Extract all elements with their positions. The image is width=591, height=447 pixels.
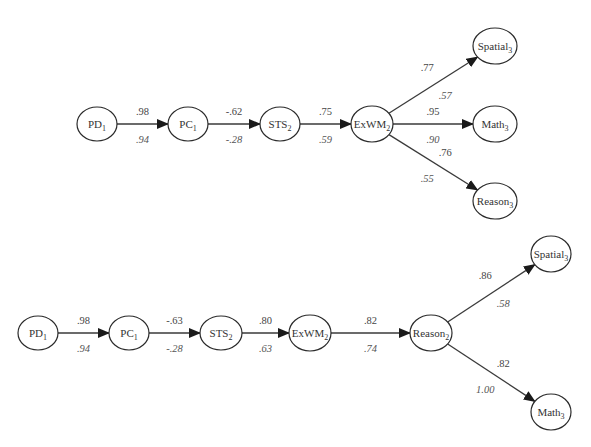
node-label-subscript: 3	[561, 412, 565, 421]
node-label-base: Math	[481, 118, 505, 130]
node-spatial3: Spatial3	[473, 28, 517, 64]
node-pd1: PD1	[77, 107, 117, 141]
coefficient-lower: .57	[439, 90, 453, 101]
path-diagram: .98.94-.62-.28.75.59.77.57.95.90.76.55.9…	[0, 0, 591, 447]
node-label-subscript: 2	[228, 333, 232, 342]
coefficient-lower: -.28	[166, 343, 183, 354]
nodes-layer: PD1PC1STS2ExWM2Spatial3Math3Reason3PD1PC…	[18, 28, 571, 430]
node-label-base: Reason	[413, 327, 446, 339]
coefficient-upper: .80	[259, 315, 272, 326]
coefficient-upper: .86	[479, 270, 492, 281]
node-label-subscript: 2	[445, 333, 449, 342]
node-label-base: ExWM	[292, 327, 325, 339]
node-pc1: PC1	[168, 107, 208, 141]
coefficient-upper: -.63	[166, 315, 183, 326]
node-reason3: Reason3	[473, 183, 517, 219]
node-label-subscript: 1	[43, 333, 47, 342]
node-label-base: Spatial	[534, 248, 565, 260]
coefficient-lower: .94	[77, 343, 91, 354]
coefficient-lower: .59	[319, 134, 333, 145]
node-sts2: STS2	[200, 316, 242, 350]
node-pd1: PD1	[18, 316, 58, 350]
node-label-subscript: 1	[193, 124, 197, 133]
coefficient-upper: .82	[497, 358, 510, 369]
node-label-subscript: 2	[287, 124, 291, 133]
node-label-base: PC	[179, 118, 192, 130]
coefficient-upper: .98	[77, 315, 90, 326]
node-label-subscript: 2	[324, 333, 328, 342]
coefficient-lower: .58	[497, 298, 511, 309]
coefficient-lower: .74	[364, 343, 378, 354]
coefficient-lower: 1.00	[476, 384, 495, 395]
node-exwm2: ExWM2	[351, 106, 393, 142]
node-label-subscript: 1	[102, 124, 106, 133]
node-pc1: PC1	[109, 316, 149, 350]
coefficient-upper: .95	[426, 106, 439, 117]
node-math3: Math3	[531, 394, 571, 430]
node-label-base: Reason	[477, 195, 510, 207]
coefficient-lower: -.28	[226, 134, 243, 145]
node-label-base: STS	[210, 327, 229, 339]
node-label-subscript: 2	[386, 124, 390, 133]
node-label-subscript: 3	[509, 201, 513, 210]
coefficient-upper: .82	[364, 315, 377, 326]
coefficient-lower: .55	[421, 173, 434, 184]
coefficient-upper: .77	[421, 62, 434, 73]
coefficient-upper: .75	[319, 106, 332, 117]
node-label-subscript: 3	[508, 46, 512, 55]
node-reason2: Reason2	[410, 315, 452, 351]
node-sts2: STS2	[260, 107, 300, 141]
coefficient-lower: .63	[259, 343, 272, 354]
node-spatial3: Spatial3	[531, 236, 571, 272]
node-label-base: PC	[120, 327, 133, 339]
coefficient-upper: .98	[136, 106, 149, 117]
coefficient-upper: -.62	[226, 106, 243, 117]
node-math3: Math3	[473, 106, 517, 142]
coefficient-upper: .76	[439, 147, 452, 158]
node-label-base: PD	[88, 118, 102, 130]
node-label-base: Math	[537, 406, 561, 418]
node-exwm2: ExWM2	[289, 315, 331, 351]
node-label-subscript: 3	[564, 254, 568, 263]
node-label-subscript: 3	[505, 124, 509, 133]
node-label-base: STS	[269, 118, 288, 130]
node-label-base: PD	[29, 327, 43, 339]
coefficient-lower: .94	[136, 134, 150, 145]
coefficient-lower: .90	[426, 134, 440, 145]
node-label-subscript: 1	[134, 333, 138, 342]
node-label-base: Spatial	[478, 40, 509, 52]
node-label-base: ExWM	[354, 118, 387, 130]
